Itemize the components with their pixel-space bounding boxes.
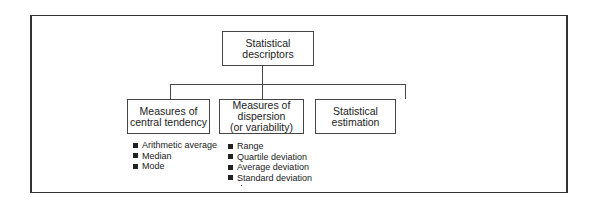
node-label-line: Statistical — [242, 38, 293, 49]
list-item: Mode — [133, 161, 217, 172]
list-item: Arithmetic average — [133, 140, 217, 151]
node-statistical-descriptors: Statistical descriptors — [222, 31, 314, 66]
list-item: Range — [228, 141, 312, 152]
bullet-square-icon — [228, 165, 233, 170]
stray-mark — [241, 185, 242, 186]
node-label-line: Measures of — [130, 106, 207, 117]
bullet-square-icon — [133, 164, 138, 169]
connector-left-down — [170, 84, 171, 99]
node-statistical-estimation: Statistical estimation — [315, 99, 396, 134]
connector-middle-down — [262, 84, 263, 99]
node-label-line: Statistical — [332, 106, 380, 117]
bullet-square-icon — [133, 153, 138, 158]
list-item: Quartile deviation — [228, 152, 312, 163]
dispersion-list: Range Quartile deviation Average deviati… — [228, 141, 312, 183]
bullet-square-icon — [133, 143, 138, 148]
central-tendency-list: Arithmetic average Median Mode — [133, 140, 217, 172]
list-item: Average deviation — [228, 162, 312, 173]
node-central-tendency: Measures of central tendency — [127, 99, 210, 134]
bullet-square-icon — [228, 175, 233, 180]
connector-right-down — [405, 84, 406, 99]
bullet-square-icon — [228, 144, 233, 149]
list-item: Standard deviation — [228, 173, 312, 184]
connector-root-down — [262, 66, 263, 85]
connector-horizontal — [170, 84, 406, 85]
node-label-line: descriptors — [242, 49, 293, 60]
node-label-line: estimation — [332, 117, 380, 128]
node-label-line: (or variability) — [230, 122, 293, 133]
node-dispersion: Measures of dispersion (or variability) — [219, 99, 304, 134]
bullet-square-icon — [228, 154, 233, 159]
list-item: Median — [133, 151, 217, 162]
node-label-line: central tendency — [130, 117, 207, 128]
